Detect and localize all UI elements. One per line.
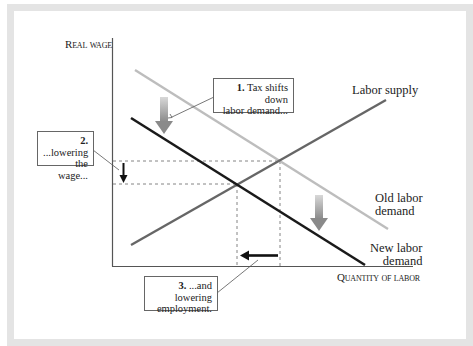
equilibrium-guides: [113, 161, 280, 266]
callout-leaders: [93, 97, 258, 293]
y-axis-label: Real wage: [65, 38, 112, 50]
old-labor-demand-label: Old labor demand: [375, 192, 423, 218]
wage-decrease-arrow: [120, 163, 128, 183]
new-labor-demand-label: New labor demand: [370, 242, 422, 268]
demand-shift-arrow-right: [310, 195, 328, 231]
labor-supply-label: Labor supply: [352, 84, 418, 97]
callout-3-lower-employment: 3. ...and lowering employment.: [144, 276, 218, 311]
callout-2-lower-wage: 2. ...lowering the wage...: [37, 131, 94, 166]
x-axis-label: Quantity of labor: [337, 271, 420, 283]
callout-1-tax-shift: 1. Tax shifts down labor demand...: [213, 78, 294, 113]
employment-decrease-arrow: [240, 251, 278, 261]
demand-shift-arrow-left: [155, 97, 173, 134]
